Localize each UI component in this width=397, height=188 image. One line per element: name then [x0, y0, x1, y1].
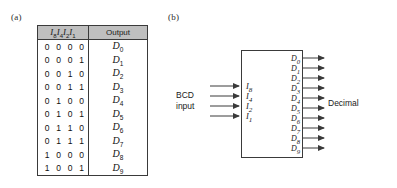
column-header-output: Output	[89, 26, 148, 40]
cell-output: D6	[89, 121, 148, 135]
cell-output: D2	[89, 67, 148, 81]
panel-b-label: (b)	[168, 12, 179, 22]
cell-input: 0 1 0 0	[38, 94, 89, 108]
table-row: 0 0 0 1 D1	[38, 54, 147, 68]
cell-output: D8	[89, 148, 148, 162]
output-pin-label-d9: D9	[278, 145, 300, 155]
decoder-block-diagram: I8 I4 I2 I1 D0 D1 D2 D3 D4 D5 D6 D7 D8 D…	[180, 0, 397, 188]
table-header-row: I8I4I2I1 Output	[38, 26, 147, 40]
truth-table-container: I8I4I2I1 Output 0 0 0 0 D0 0 0 0 1 D1 0 …	[37, 25, 148, 176]
subscript-1: 1	[72, 32, 75, 38]
table-body: 0 0 0 0 D0 0 0 0 1 D1 0 0 1 0 D2 0 0 1 1…	[38, 40, 147, 176]
cell-output: D9	[89, 162, 148, 176]
cell-output: D0	[89, 40, 148, 54]
cell-input: 0 0 0 1	[38, 54, 89, 68]
bcd-input-caption: BCD input	[176, 90, 216, 112]
table-row: 0 1 0 0 D4	[38, 94, 147, 108]
table-row: 0 0 1 1 D3	[38, 81, 147, 95]
cell-output: D4	[89, 94, 148, 108]
output-symbol: D1	[113, 54, 124, 65]
input-pin-label-i1: I1	[246, 112, 252, 124]
table-row: 0 1 1 1 D7	[38, 135, 147, 149]
cell-input: 0 1 1 1	[38, 135, 89, 149]
cell-input: 1 0 0 1	[38, 162, 89, 176]
table-row: 0 0 1 0 D2	[38, 67, 147, 81]
output-arrow-group	[303, 58, 324, 148]
table-row: 0 1 1 0 D6	[38, 121, 147, 135]
output-symbol: D5	[113, 108, 124, 119]
column-header-inputs: I8I4I2I1	[38, 26, 89, 40]
input-bit-header-i1: I1	[69, 27, 75, 37]
decimal-output-caption: Decimal	[328, 98, 359, 109]
decoder-box: I8 I4 I2 I1 D0 D1 D2 D3 D4 D5 D6 D7 D8 D…	[241, 50, 303, 158]
output-symbol: D9	[113, 162, 124, 173]
table-row: 0 0 0 0 D0	[38, 40, 147, 54]
output-symbol: D7	[113, 135, 124, 146]
output-symbol: D6	[113, 121, 124, 132]
panel-a-label: (a)	[11, 12, 22, 22]
input-bit-header-i8: I8	[50, 27, 56, 37]
cell-input: 0 0 1 0	[38, 67, 89, 81]
table-row: 1 0 0 0 D8	[38, 148, 147, 162]
output-symbol: D8	[113, 148, 124, 159]
table-row: 0 1 0 1 D5	[38, 108, 147, 122]
cell-output: D5	[89, 108, 148, 122]
table-header: I8I4I2I1 Output	[38, 26, 147, 40]
cell-input: 0 1 1 0	[38, 121, 89, 135]
cell-input: 0 0 1 1	[38, 81, 89, 95]
output-symbol: D3	[113, 81, 124, 92]
cell-output: D1	[89, 54, 148, 68]
output-symbol: D0	[113, 40, 124, 51]
output-symbol: D2	[113, 67, 124, 78]
cell-output: D3	[89, 81, 148, 95]
table-row: 1 0 0 1 D9	[38, 162, 147, 176]
cell-output: D7	[89, 135, 148, 149]
cell-input: 0 0 0 0	[38, 40, 89, 54]
output-symbol: D4	[113, 94, 124, 105]
bcd-truth-table: I8I4I2I1 Output 0 0 0 0 D0 0 0 0 1 D1 0 …	[38, 26, 147, 175]
cell-input: 1 0 0 0	[38, 148, 89, 162]
cell-input: 0 1 0 1	[38, 108, 89, 122]
